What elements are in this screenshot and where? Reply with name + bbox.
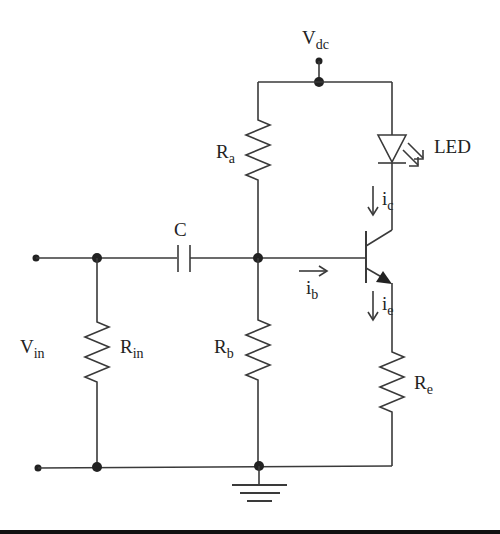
npn-transistor — [366, 230, 392, 350]
ground-rail-wire — [38, 466, 392, 468]
resistor-re — [380, 350, 404, 466]
ground-icon — [232, 466, 287, 501]
rb-label: Rb — [214, 336, 234, 361]
resistor-rb — [246, 258, 270, 466]
re-label: Re — [414, 372, 433, 397]
resistor-ra — [246, 82, 270, 258]
ib-label: ib — [306, 277, 318, 302]
c-label: C — [174, 219, 187, 240]
rin-label: Rin — [120, 336, 144, 361]
circuit-diagram: Vdc Ra LED ic C ib — [0, 0, 500, 534]
vdc-label: Vdc — [302, 27, 329, 52]
capacitor-c — [178, 245, 366, 272]
junction-rin-bottom — [92, 462, 102, 472]
bottom-border — [0, 530, 500, 534]
ib-arrow — [299, 266, 327, 276]
ic-arrow — [368, 186, 378, 215]
vin-label: Vin — [20, 336, 45, 361]
led-label: LED — [434, 136, 471, 157]
resistor-rin — [85, 258, 109, 466]
ie-arrow — [368, 291, 378, 320]
ra-label: Ra — [216, 141, 236, 166]
